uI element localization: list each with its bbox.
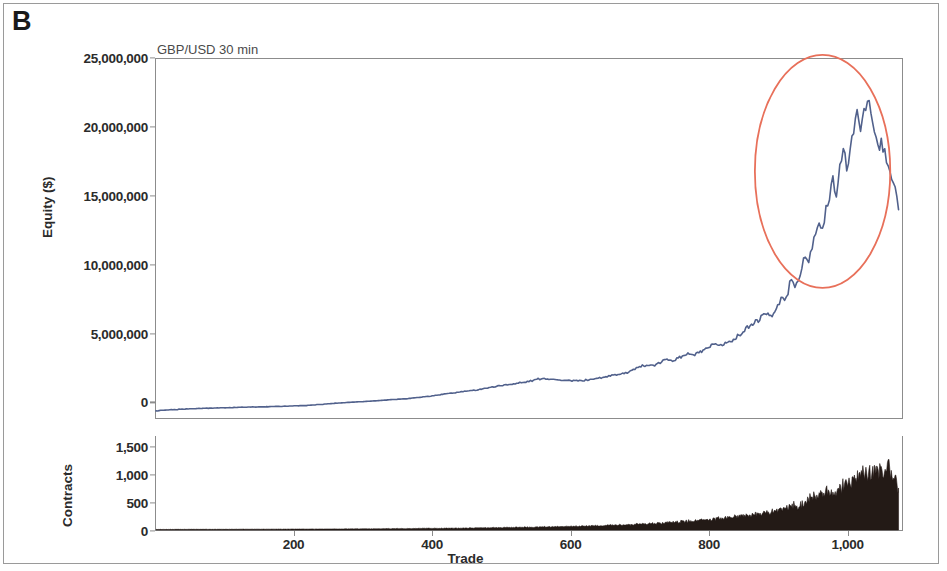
- equity-ytick-label: 10,000,000: [0, 257, 148, 272]
- x-tick-mark: [848, 531, 849, 536]
- x-tick-label: 1,000: [831, 537, 863, 552]
- x-axis-title: Trade: [0, 551, 947, 566]
- contracts-plot-area: [155, 436, 903, 531]
- x-tick-mark: [571, 531, 572, 536]
- equity-ytick-label: 25,000,000: [0, 51, 148, 66]
- equity-curve-svg: [156, 59, 902, 418]
- contracts-ytick-label: 1,500: [0, 440, 148, 455]
- contracts-area-fill: [156, 459, 899, 530]
- x-axis-title-text: Trade: [447, 551, 483, 566]
- equity-ytick-label: 15,000,000: [0, 188, 148, 203]
- x-tick-label: 600: [560, 537, 582, 552]
- x-tick-label: 400: [421, 537, 443, 552]
- x-tick-mark: [432, 531, 433, 536]
- drawdown-highlight-ellipse: [755, 55, 890, 288]
- equity-curve-line: [156, 101, 899, 411]
- equity-plot-area: [155, 58, 903, 419]
- x-tick-mark: [294, 531, 295, 536]
- chart-title: GBP/USD 30 min: [157, 42, 258, 57]
- equity-ytick-label: 5,000,000: [0, 326, 148, 341]
- equity-ytick-label: 0: [0, 395, 148, 410]
- contracts-area-svg: [156, 436, 902, 530]
- contracts-axis-title: Contracts: [60, 464, 75, 527]
- x-tick-label: 200: [283, 537, 305, 552]
- equity-axis-title: Equity ($): [40, 176, 55, 238]
- x-tick-mark: [709, 531, 710, 536]
- x-tick-label: 800: [698, 537, 720, 552]
- panel-letter: B: [12, 6, 32, 37]
- figure-panel-b: B GBP/USD 30 min 25,000,00020,000,00015,…: [0, 0, 947, 571]
- equity-ytick-label: 20,000,000: [0, 119, 148, 134]
